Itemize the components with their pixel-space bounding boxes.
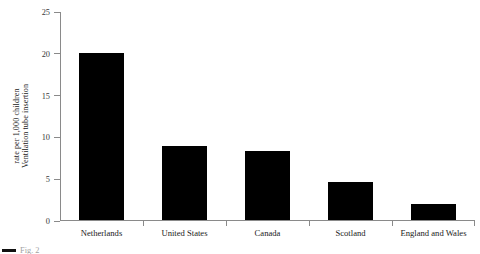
y-axis-title-line-1: Ventilation tube insertion (21, 84, 30, 168)
y-axis-tick-label: 10 (42, 133, 50, 142)
y-axis-tick: 10 (54, 137, 60, 138)
y-axis-title-line-2: rate per 1,000 children (12, 88, 21, 163)
y-axis-tick: 20 (54, 53, 60, 54)
figure-bar-chart: Ventilation tube insertion rate per 1,00… (0, 0, 480, 254)
x-axis-category-label: England and Wales (401, 228, 467, 238)
plot-area: 0510152025 NetherlandsUnited StatesCanad… (60, 12, 475, 221)
x-axis-category-label: Scotland (335, 228, 365, 238)
x-axis-separator (474, 221, 475, 226)
x-axis-category-label: Canada (255, 228, 281, 238)
caption-text: Fig. 2 (20, 246, 40, 254)
x-axis-category-label: Netherlands (81, 228, 123, 238)
y-axis-tick: 5 (54, 179, 60, 180)
bar (328, 182, 373, 220)
x-axis-separator (392, 221, 393, 226)
bar (162, 146, 207, 220)
x-axis-separator (309, 221, 310, 226)
y-axis-tick-label: 5 (46, 175, 50, 184)
bar (79, 53, 124, 220)
y-axis-line (60, 12, 61, 221)
y-axis-tick: 15 (54, 95, 60, 96)
y-axis-tick-label: 0 (46, 217, 50, 226)
bar (245, 151, 290, 220)
y-axis-title: Ventilation tube insertion rate per 1,00… (6, 36, 36, 216)
y-axis-tick-label: 25 (42, 8, 50, 17)
y-axis-tick: 25 (54, 12, 60, 13)
caption-rule (2, 249, 16, 252)
x-axis-separator (143, 221, 144, 226)
figure-caption: Fig. 2 (2, 245, 40, 254)
y-axis-tick: 0 (54, 221, 60, 222)
x-axis-line (60, 220, 475, 221)
bar (411, 204, 456, 220)
x-axis-category-label: United States (161, 228, 207, 238)
y-axis-tick-label: 20 (42, 49, 50, 58)
y-axis-tick-label: 15 (42, 91, 50, 100)
x-axis-separator (226, 221, 227, 226)
